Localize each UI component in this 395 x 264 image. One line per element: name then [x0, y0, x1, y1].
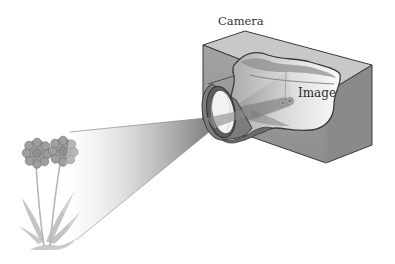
camera-diagram: Camera Image [0, 0, 395, 264]
flower-head-left [22, 138, 52, 168]
diagram-svg [0, 0, 395, 264]
camera-label: Camera [218, 14, 264, 28]
light-cone [60, 118, 214, 240]
image-label: Image [298, 86, 336, 100]
